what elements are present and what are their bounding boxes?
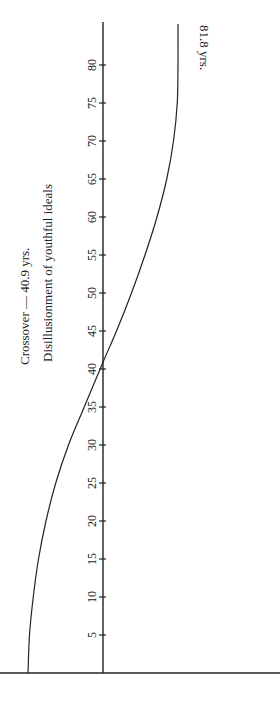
end-label: 81.8 yrs. (197, 25, 212, 70)
tick-label: 75 (85, 97, 99, 109)
tick-label: 55 (85, 249, 99, 261)
tick-label: 50 (85, 287, 99, 299)
tick-label: 30 (85, 439, 99, 451)
chart: 5101520253035404550556065707580 Crossove… (0, 0, 280, 706)
tick-label: 35 (85, 401, 99, 413)
tick-label: 70 (85, 135, 99, 147)
tick-label: 5 (85, 632, 99, 638)
tick-label: 60 (85, 211, 99, 223)
disillusionment-annotation: Disillusionment of youthful ideals (40, 184, 55, 362)
tick-label: 65 (85, 173, 99, 185)
tick-label: 25 (85, 477, 99, 489)
tick-label: 80 (85, 59, 99, 71)
crossover-annotation: Crossover — 40.9 yrs. (17, 248, 32, 365)
tick-label: 15 (85, 553, 99, 565)
tick-label: 40 (85, 363, 99, 375)
tick-label: 20 (85, 515, 99, 527)
tick-label: 10 (85, 591, 99, 603)
tick-label: 45 (85, 325, 99, 337)
